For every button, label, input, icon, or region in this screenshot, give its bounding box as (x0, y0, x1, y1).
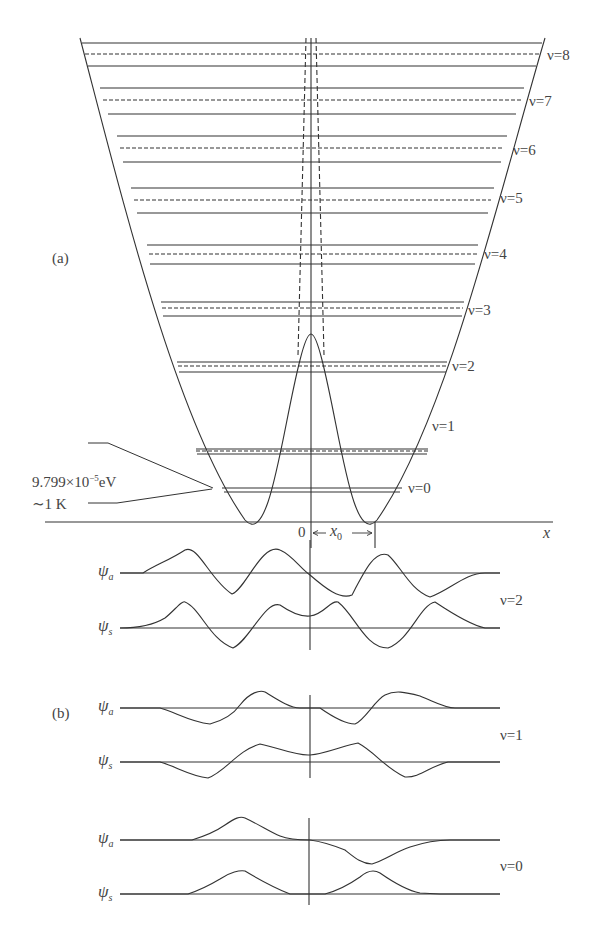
psi-s-label-nu2: ψs (98, 616, 112, 637)
energy-splitting-annotation: 9.799×10−5eV ∼1 K (32, 467, 116, 515)
level-label-nu1: ν=1 (432, 418, 455, 435)
level-label-nu5: ν=5 (500, 190, 523, 207)
psi-a-label-nu1: ψa (98, 696, 114, 717)
annotation-mantissa: 9.799×10 (32, 474, 89, 490)
level-label-nu0: ν=0 (408, 480, 431, 497)
nu-label-group-2: ν=2 (500, 592, 523, 609)
nu-label-group-1: ν=1 (500, 727, 523, 744)
level-label-nu6: ν=6 (513, 142, 536, 159)
x0-label: x0 (330, 522, 342, 542)
annotation-exponent: −5 (89, 473, 99, 483)
level-label-nu4: ν=4 (484, 246, 507, 263)
energy-levels (82, 43, 542, 492)
level-label-nu3: ν=3 (468, 302, 491, 319)
x-axis-label: x (543, 524, 550, 542)
x0-arrow (313, 531, 372, 536)
psi-s-nu0 (120, 871, 500, 894)
psi-a-label-nu0: ψa (98, 828, 114, 849)
psi-s-label-nu1: ψs (98, 750, 112, 771)
annotation-temperature: ∼1 K (32, 496, 67, 512)
psi-s-label-nu0: ψs (98, 882, 112, 903)
psi-a-nu0 (120, 817, 500, 864)
level-label-nu8: ν=8 (547, 47, 570, 64)
annotation-unit: eV (99, 474, 117, 490)
part-b-label: (b) (52, 705, 70, 722)
wavefunctions (120, 540, 500, 905)
nu-label-group-0: ν=0 (500, 858, 523, 875)
part-a-label: (a) (52, 250, 69, 267)
level-label-nu2: ν=2 (452, 358, 475, 375)
level-label-nu7: ν=7 (529, 93, 552, 110)
psi-a-label-nu2: ψa (98, 561, 114, 582)
x0-subscript: 0 (337, 531, 342, 542)
origin-label: 0 (298, 524, 306, 541)
